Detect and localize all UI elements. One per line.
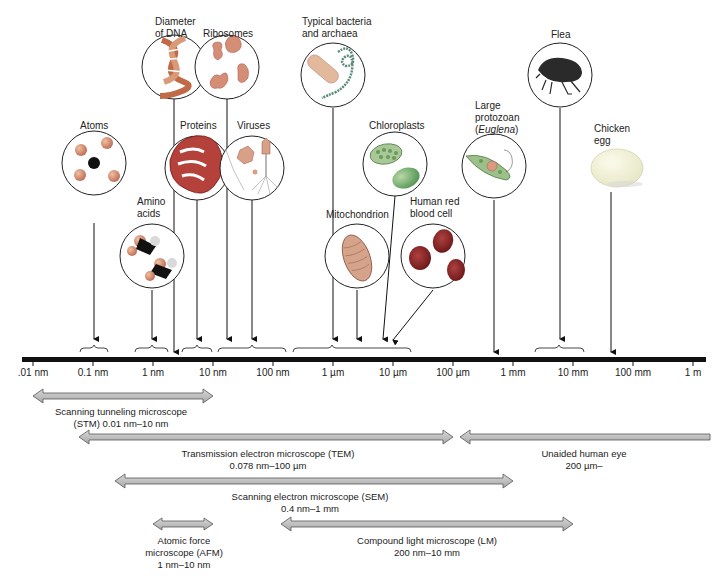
label-proteins: Proteins: [180, 120, 217, 132]
label-tem: Transmission electron microscope (TEM) 0…: [182, 448, 355, 472]
label-stm-line1: Scanning tunneling microscope: [55, 406, 187, 418]
label-sem-line2: 0.4 nm–1 mm: [232, 503, 389, 515]
brace-cells: [293, 345, 411, 352]
label-rbc: Human red blood cell: [410, 196, 459, 220]
label-egg: Chicken egg: [594, 123, 630, 147]
label-egg-line1: Chicken: [594, 123, 630, 135]
label-ribosomes: Ribosomes: [203, 28, 253, 40]
label-flea: Flea: [551, 29, 570, 41]
eye-range-arrow: [460, 430, 710, 444]
label-amino-acids: Amino acids: [137, 196, 165, 220]
label-afm-line2: microscope (AFM): [145, 547, 223, 559]
label-rbc-line2: blood cell: [410, 208, 459, 220]
range-braces: [80, 345, 584, 352]
label-bacteria: Typical bacteria and archaea: [302, 16, 371, 40]
label-lm-line1: Compound light microscope (LM): [357, 535, 497, 547]
label-eye: Unaided human eye 200 µm–: [541, 448, 626, 472]
label-protozoan-line3: (Euglena): [475, 124, 519, 136]
label-tem-line2: 0.078 nm–100 µm: [182, 460, 355, 472]
afm-range-arrow: [153, 518, 213, 530]
label-lm-line2: 200 nm–10 mm: [357, 547, 497, 559]
tick-label-1: 0.1 nm: [78, 367, 109, 378]
label-sem: Scanning electron microscope (SEM) 0.4 n…: [232, 491, 389, 515]
label-dna-line2: of DNA: [155, 28, 196, 40]
label-dna-line1: Diameter: [155, 16, 196, 28]
amino-acids-illustration: [120, 224, 184, 288]
label-sem-line1: Scanning electron microscope (SEM): [232, 491, 389, 503]
label-afm-line1: Atomic force: [145, 535, 223, 547]
tem-range-arrow: [79, 430, 453, 444]
label-bacteria-line2: and archaea: [302, 28, 371, 40]
brace-atoms: [80, 345, 108, 352]
label-protozoan: Large protozoan (Euglena): [475, 100, 519, 136]
protozoan-illustration: [462, 134, 526, 198]
label-atoms: Atoms: [80, 120, 108, 132]
label-eye-line2: 200 µm–: [541, 460, 626, 472]
tick-label-4: 100 nm: [256, 367, 289, 378]
label-chloroplasts: Chloroplasts: [369, 120, 425, 132]
label-amino-acids-line2: acids: [137, 208, 165, 220]
tick-label-2: 1 nm: [142, 367, 164, 378]
tick-label-9: 10 mm: [558, 367, 589, 378]
label-dna: Diameter of DNA: [155, 16, 196, 40]
bacteria-illustration: [301, 43, 365, 107]
brace-amino-acids: [135, 345, 168, 352]
tick-label-10: 100 mm: [615, 367, 651, 378]
label-mitochondrion: Mitochondrion: [326, 209, 389, 221]
label-afm: Atomic force microscope (AFM) 1 nm–10 nm: [145, 535, 223, 571]
label-protozoan-line2: protozoan: [475, 112, 519, 124]
tick-label-0: .01 nm: [18, 367, 49, 378]
egg-illustration: [591, 149, 643, 187]
label-amino-acids-line1: Amino: [137, 196, 165, 208]
chloroplasts-illustration: [363, 132, 427, 196]
label-eye-line1: Unaided human eye: [541, 448, 626, 460]
tick-label-11: 1 m: [685, 367, 702, 378]
brace-flea: [535, 345, 584, 352]
viruses-illustration: [220, 136, 284, 200]
rbc-illustration: [401, 224, 465, 288]
label-tem-line1: Transmission electron microscope (TEM): [182, 448, 355, 460]
tick-label-5: 1 µm: [322, 367, 344, 378]
size-scale-figure: Atoms Amino acids Diameter of DNA Riboso…: [0, 0, 726, 582]
line-rbc: [393, 290, 433, 340]
label-lm: Compound light microscope (LM) 200 nm–10…: [357, 535, 497, 559]
brace-viruses: [218, 345, 286, 352]
lm-range-arrow: [281, 517, 573, 531]
label-rbc-line1: Human red: [410, 196, 459, 208]
tick-label-3: 10 nm: [199, 367, 227, 378]
stm-range-arrow: [33, 389, 213, 403]
tick-label-6: 10 µm: [379, 367, 407, 378]
atoms-illustration: [62, 131, 126, 195]
label-protozoan-line1: Large: [475, 100, 519, 112]
label-egg-line2: egg: [594, 135, 630, 147]
label-afm-line3: 1 nm–10 nm: [145, 559, 223, 571]
mitochondrion-illustration: [325, 224, 389, 288]
label-viruses: Viruses: [237, 120, 270, 132]
tick-label-7: 100 µm: [436, 367, 470, 378]
ribosomes-illustration: [195, 35, 259, 99]
label-stm-line2: (STM) 0.01 nm–10 nm: [55, 418, 187, 430]
brace-proteins: [182, 345, 212, 352]
sem-range-arrow: [115, 474, 513, 488]
flea-illustration: [528, 43, 592, 107]
proteins-illustration: [165, 136, 229, 200]
label-stm: Scanning tunneling microscope (STM) 0.01…: [55, 406, 187, 430]
label-bacteria-line1: Typical bacteria: [302, 16, 371, 28]
scale-bar: [22, 357, 706, 366]
tick-label-8: 1 mm: [501, 367, 526, 378]
